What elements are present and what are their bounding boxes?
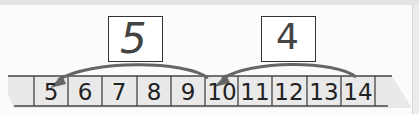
number-cell-7: 7 <box>102 79 136 106</box>
number-cell-12: 12 <box>272 79 306 106</box>
number-cell-10: 10 <box>205 79 239 106</box>
number-cell-11: 11 <box>238 79 272 106</box>
number-cell-9: 9 <box>171 79 205 106</box>
number-cell-14: 14 <box>341 79 375 106</box>
number-cell-6: 6 <box>68 79 102 106</box>
number-cell-5: 5 <box>34 79 68 106</box>
number-cell-8: 8 <box>137 79 171 106</box>
number-cell-13: 13 <box>307 79 341 106</box>
